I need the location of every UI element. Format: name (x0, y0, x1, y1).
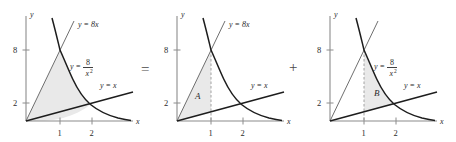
x-tick-label-1: 1 (209, 128, 213, 138)
label-y-eq-8-over-x2-lhs: y = (373, 62, 385, 71)
x-tick-label-2: 2 (394, 128, 398, 138)
panel-region-b: y x 8 2 1 2 y = 8 x 2 y = x B (304, 0, 456, 142)
panel-region-a: y x 8 2 1 2 y = 8x y = x A (151, 0, 303, 142)
x-tick-label-1: 1 (362, 128, 366, 138)
panel-3-plot: y x 8 2 1 2 y = 8 x 2 y = x B (304, 0, 456, 142)
panel-1-plot: y x 8 2 1 2 y = 8x y = 8 x 2 y = x (0, 0, 152, 142)
y-tick-label-2: 2 (13, 98, 17, 108)
plus-operator: + (289, 60, 297, 75)
x-axis-label: x (286, 117, 291, 126)
x-tick-label-1: 1 (58, 128, 62, 138)
label-y-eq-8-over-x2-numerator: 8 (86, 58, 90, 67)
region-label-a: A (194, 91, 201, 101)
panel-whole-region: y x 8 2 1 2 y = 8x y = 8 x 2 y = x (0, 0, 152, 142)
label-y-eq-8-over-x2-exponent: 2 (90, 68, 93, 74)
y-tick-label-8: 8 (13, 45, 17, 55)
region-label-b: B (374, 88, 380, 98)
shaded-region-total (26, 50, 91, 121)
label-y-eq-8-over-x2-numerator: 8 (390, 58, 394, 67)
y-tick-label-2: 2 (317, 98, 321, 108)
panel-2-plot: y x 8 2 1 2 y = 8x y = x A (151, 0, 303, 142)
y-axis-label: y (333, 10, 338, 19)
label-y-eq-8-over-x2-denominator: x (85, 69, 90, 78)
y-axis-label: y (29, 10, 34, 19)
label-y-eq-8x: y = 8x (228, 20, 250, 29)
x-axis-label: x (135, 117, 140, 126)
curve-y-eq-8-over-x-squared (203, 18, 282, 121)
y-tick-label-8: 8 (317, 45, 321, 55)
label-y-eq-8-over-x2-lhs: y = (69, 62, 81, 71)
label-y-eq-x: y = x (403, 81, 421, 90)
label-y-eq-8-over-x2-denominator: x (389, 69, 394, 78)
label-y-eq-x: y = x (99, 81, 117, 90)
y-axis-label: y (180, 10, 185, 19)
x-tick-label-2: 2 (241, 128, 245, 138)
label-y-eq-8x: y = 8x (77, 20, 99, 29)
label-y-eq-8-over-x2-exponent: 2 (394, 68, 397, 74)
x-tick-label-2: 2 (90, 128, 94, 138)
y-tick-label-2: 2 (164, 98, 168, 108)
label-y-eq-x: y = x (250, 81, 268, 90)
region-decomposition-figure: y x 8 2 1 2 y = 8x y = 8 x 2 y = x = (0, 0, 456, 142)
y-tick-label-8: 8 (164, 45, 168, 55)
equals-operator: = (141, 62, 149, 77)
x-axis-label: x (439, 117, 444, 126)
